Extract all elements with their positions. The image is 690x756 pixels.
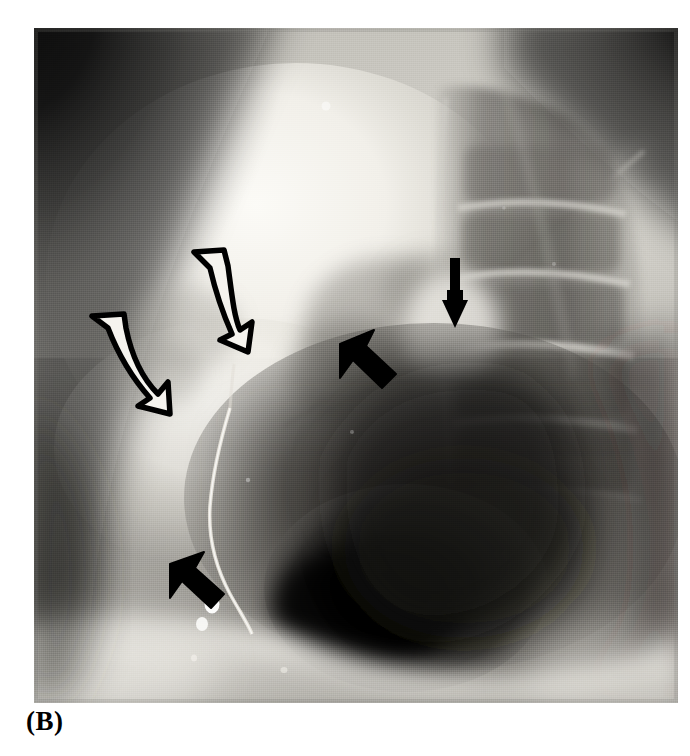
solid-block-arrow-upper-icon: [340, 330, 396, 388]
figure-root: (B): [0, 0, 690, 756]
radiograph-plate: [34, 28, 678, 703]
open-curved-arrow-1-icon: [194, 250, 252, 352]
solid-down-arrow-icon: [442, 258, 468, 328]
annotation-layer: [34, 28, 678, 703]
open-curved-arrow-2-icon: [92, 314, 170, 414]
figure-caption: (B): [26, 706, 64, 736]
solid-block-arrow-lower-icon: [170, 552, 224, 608]
